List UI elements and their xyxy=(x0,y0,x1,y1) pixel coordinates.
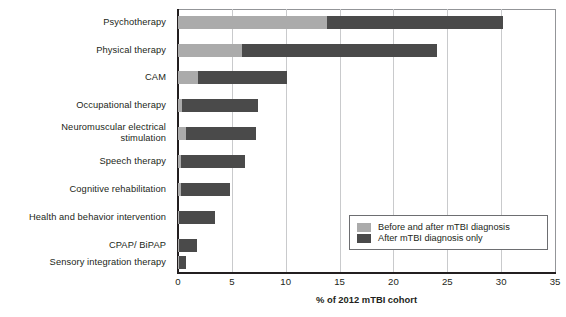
bar-segment-after xyxy=(179,211,215,224)
bar-row xyxy=(178,239,197,252)
bar-segment-after xyxy=(186,127,256,140)
bar-segment-after xyxy=(327,16,504,29)
category-label: CPAP/ BiPAP xyxy=(109,240,166,251)
x-tick-label: 0 xyxy=(163,276,193,287)
bar-segment-after xyxy=(182,99,257,112)
x-tick-label: 20 xyxy=(378,276,408,287)
bar-segment-after xyxy=(242,44,437,57)
bar-row xyxy=(178,127,256,140)
bar-row xyxy=(178,183,230,196)
category-label: CAM xyxy=(145,72,166,83)
category-label: Occupational therapy xyxy=(76,100,166,111)
bar-segment-before xyxy=(178,71,198,84)
bar-segment-after xyxy=(179,256,185,269)
bar-row xyxy=(178,44,437,57)
legend-item-after: After mTBI diagnosis only xyxy=(357,233,541,243)
legend-label-after: After mTBI diagnosis only xyxy=(378,233,483,243)
x-axis-line xyxy=(177,272,556,274)
bar-row xyxy=(178,256,186,269)
bar-row xyxy=(178,16,503,29)
x-tick-label: 25 xyxy=(432,276,462,287)
x-tick-label: 35 xyxy=(540,276,566,287)
bar-segment-before xyxy=(178,44,242,57)
category-axis-labels: PsychotherapyPhysical therapyCAMOccupati… xyxy=(0,0,172,272)
legend-swatch-before xyxy=(357,223,371,232)
bar-segment-after xyxy=(198,71,286,84)
category-label: Speech therapy xyxy=(99,156,166,167)
bar-chart: PsychotherapyPhysical therapyCAMOccupati… xyxy=(0,0,566,317)
x-axis-title: % of 2012 mTBI cohort xyxy=(178,294,555,305)
x-tick-label: 10 xyxy=(271,276,301,287)
x-tick-label: 5 xyxy=(217,276,247,287)
category-label: Health and behavior intervention xyxy=(29,212,166,223)
bar-row xyxy=(178,211,215,224)
category-label: Physical therapy xyxy=(96,45,166,56)
category-label: Neuromuscular electrical stimulation xyxy=(61,122,166,144)
category-label: Sensory integration therapy xyxy=(50,257,166,268)
bar-segment-before xyxy=(178,127,186,140)
x-tick-label: 30 xyxy=(486,276,516,287)
legend: Before and after mTBI diagnosis After mT… xyxy=(349,215,548,250)
category-label: Cognitive rehabilitation xyxy=(70,184,166,195)
legend-swatch-after xyxy=(357,234,371,243)
legend-item-before: Before and after mTBI diagnosis xyxy=(357,222,541,232)
legend-label-before: Before and after mTBI diagnosis xyxy=(378,222,510,232)
bar-segment-before xyxy=(178,16,327,29)
x-tick-label: 15 xyxy=(325,276,355,287)
bar-row xyxy=(178,155,245,168)
bar-row xyxy=(178,71,287,84)
bar-row xyxy=(178,99,258,112)
bar-segment-after xyxy=(181,155,245,168)
bar-segment-after xyxy=(181,183,229,196)
bar-segment-after xyxy=(179,239,197,252)
category-label: Psychotherapy xyxy=(103,17,166,28)
